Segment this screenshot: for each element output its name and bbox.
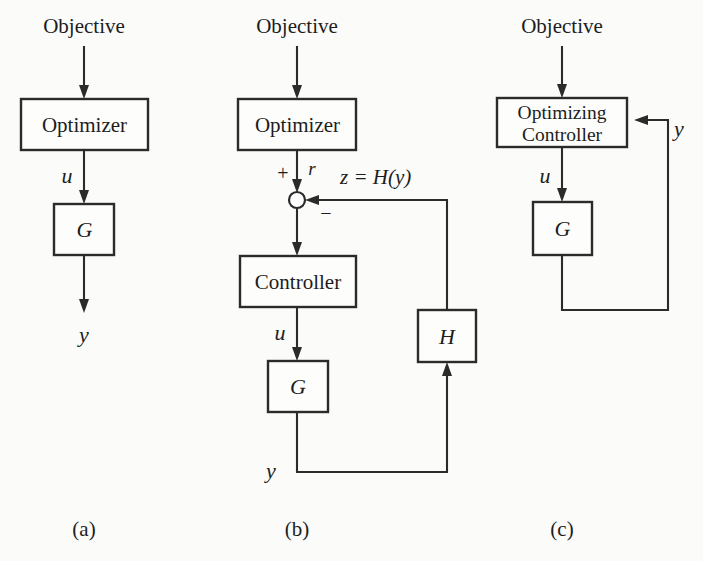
panel-c-plant-label: G [555,216,571,241]
panel-a-caption: (a) [72,517,95,541]
block-diagram-figure: Objective Optimizer u G y (a) O [0,0,703,561]
panel-b-sensor-input-arrowhead [442,362,452,376]
panel-b-caption: (b) [285,517,310,541]
panel-c-objective-arrow [557,46,567,98]
panel-b-sensor-label: H [438,324,456,349]
panel-b-optimizer-label: Optimizer [255,113,340,137]
panel-b-feedback-relation-label: z = H(y) [339,165,411,189]
panel-b-y-label: y [264,458,276,483]
panel-b-u-label: u [275,320,286,345]
panel-b: Objective Optimizer r + − z = H(y) Contr [238,14,476,541]
panel-b-plus-sign: + [277,162,288,184]
panel-b-objective-arrow [292,46,302,99]
panel-c-optimizing-controller-label-line2: Controller [522,124,603,145]
panel-c-u-arrow [557,147,567,202]
panel-c-u-label: u [540,163,551,188]
panel-b-controller-label: Controller [255,270,341,294]
panel-b-error-arrow [292,208,302,256]
panel-b-r-arrow [292,150,302,193]
panel-a-plant-label: G [77,217,93,242]
panel-b-r-label: r [308,158,316,179]
panel-a-u-arrow [79,150,89,204]
panel-c-feedback-arrowhead [634,115,648,125]
panel-c-optimizing-controller-label-line1: Optimizing [518,102,607,123]
panel-c-caption: (c) [550,517,573,541]
panel-b-u-arrow [292,307,302,361]
panel-c: Objective Optimizing Controller u G y (c… [497,14,684,541]
panel-c-objective-label: Objective [521,14,603,38]
panel-a-u-label: u [62,163,73,188]
panel-a-objective-label: Objective [43,14,125,38]
panel-a-optimizer-label: Optimizer [42,113,127,137]
panel-a: Objective Optimizer u G y (a) [21,14,148,541]
panel-b-summing-input-arrowhead [305,195,319,205]
panel-a-y-arrow [79,255,89,313]
panel-b-summing-junction [289,192,305,208]
panel-b-objective-label: Objective [256,14,338,38]
panel-c-y-label: y [672,116,684,141]
panel-a-y-label: y [77,322,89,347]
panel-b-plant-label: G [290,374,306,399]
panel-b-minus-sign: − [320,202,331,224]
panel-a-objective-arrow [79,46,89,99]
diagram-canvas: Objective Optimizer u G y (a) O [0,0,703,561]
